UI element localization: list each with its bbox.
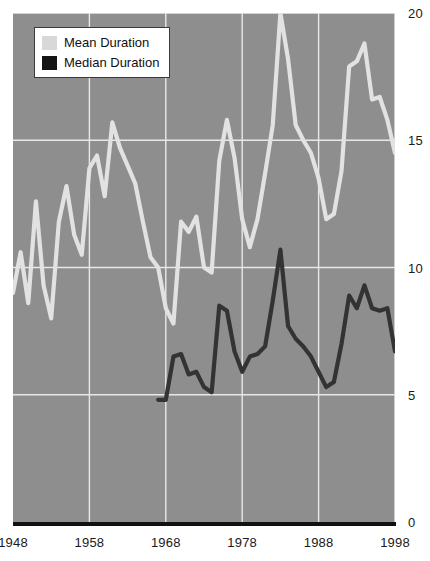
y-tick-label: 10 [408, 262, 423, 275]
x-tick-label: 1948 [0, 536, 35, 549]
series-line-median [158, 250, 395, 400]
plot-area [13, 13, 395, 522]
y-tick-label: 20 [408, 7, 423, 20]
x-tick-label: 1998 [373, 536, 417, 549]
legend-label-median: Median Duration [64, 56, 159, 69]
x-tick-label: 1978 [220, 536, 264, 549]
x-tick-label: 1988 [297, 536, 341, 549]
legend-label-mean: Mean Duration [64, 36, 149, 49]
y-tick-label: 15 [408, 134, 423, 147]
chart-legend: Mean Duration Median Duration [34, 27, 170, 78]
y-tick-label: 5 [408, 389, 415, 402]
x-tick-label: 1968 [144, 536, 188, 549]
y-tick-label: 0 [408, 516, 415, 529]
x-axis-baseline [13, 522, 396, 526]
legend-item-mean: Mean Duration [42, 34, 159, 51]
median-swatch-icon [42, 56, 57, 70]
chart-canvas [13, 13, 395, 522]
x-tick-label: 1958 [67, 536, 111, 549]
mean-swatch-icon [42, 36, 57, 50]
chart-page: 05101520 194819581968197819881998 Mean D… [0, 0, 430, 561]
legend-item-median: Median Duration [42, 54, 159, 71]
